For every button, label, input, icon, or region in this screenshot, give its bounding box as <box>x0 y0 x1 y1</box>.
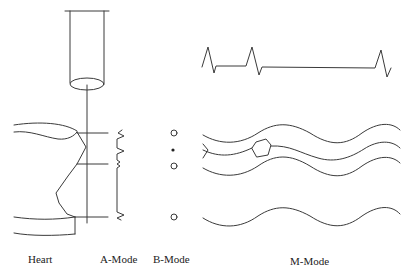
heart-outline <box>14 123 86 235</box>
echo-lines <box>75 133 108 217</box>
label-heart: Heart <box>28 253 52 265</box>
valve-hexagon <box>252 139 271 157</box>
transducer-probe <box>65 11 109 90</box>
label-m-mode: M-Mode <box>290 255 329 267</box>
ecg-trace <box>202 47 391 77</box>
ultrasound-modes-diagram <box>0 0 406 269</box>
label-b-mode: B-Mode <box>153 253 190 265</box>
label-a-mode: A-Mode <box>100 253 137 265</box>
m-mode-traces <box>203 124 400 226</box>
b-mode-dots <box>171 130 177 220</box>
a-mode-trace <box>117 130 124 220</box>
